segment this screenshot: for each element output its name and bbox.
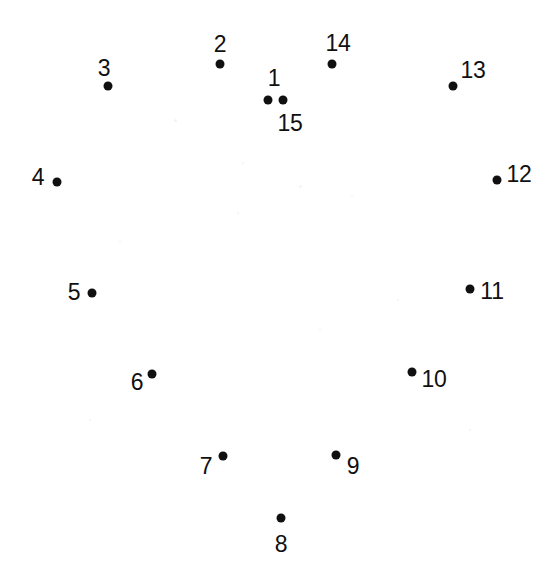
paper-speckle [89,419,91,421]
dot-label-11: 11 [480,280,503,303]
dot-label-6: 6 [131,371,144,394]
paper-speckle [237,212,239,214]
paper-speckle [397,299,399,301]
paper-speckle [242,162,244,164]
paper-speckle [351,195,353,197]
dot-label-14: 14 [326,32,351,55]
puzzle-dot-13[interactable] [449,82,458,91]
puzzle-dot-9[interactable] [332,451,341,460]
puzzle-dot-10[interactable] [408,368,417,377]
dot-label-10: 10 [422,368,447,391]
dot-label-12: 12 [507,163,532,186]
connect-the-dots-canvas: 123456789101112131415 [0,0,554,571]
puzzle-dot-11[interactable] [466,285,475,294]
puzzle-dot-1[interactable] [279,96,288,105]
dot-label-3: 3 [98,57,111,80]
puzzle-dot-7[interactable] [219,452,228,461]
puzzle-dot-3[interactable] [104,82,113,91]
paper-speckle [469,429,471,431]
dot-label-13: 13 [461,59,486,82]
puzzle-dot-8[interactable] [277,514,286,523]
paper-speckle [174,119,177,122]
dot-label-1: 1 [268,67,281,90]
dot-label-7: 7 [200,455,213,478]
dot-label-8: 8 [275,533,288,556]
puzzle-dot-2[interactable] [216,60,225,69]
paper-speckle [119,241,121,243]
puzzle-dot-6[interactable] [148,370,157,379]
dot-label-15: 15 [278,112,303,135]
dot-label-4: 4 [32,166,45,189]
dot-label-2: 2 [214,33,227,56]
puzzle-dot-12[interactable] [493,176,502,185]
dot-label-9: 9 [347,455,360,478]
puzzle-dot-15[interactable] [264,96,273,105]
paper-speckle [319,329,321,331]
puzzle-dot-4[interactable] [53,178,62,187]
puzzle-dot-5[interactable] [88,289,97,298]
puzzle-dot-14[interactable] [328,60,337,69]
dot-label-5: 5 [68,281,81,304]
paper-speckle [299,185,302,188]
